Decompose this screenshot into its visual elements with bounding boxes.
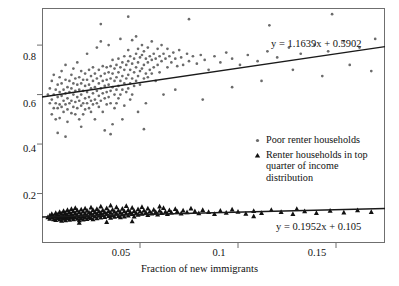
trendline-equation-poor: y = 1.1639x + 0.5902 [271,38,362,49]
x-tick-label: 0.05 [101,248,141,258]
x-axis-title: Fraction of new immigrants [0,263,399,274]
legend-label: Poor renter households [266,134,380,145]
x-tick-label: 0.15 [297,248,337,258]
y-tick-label: 0.8 [6,52,36,62]
trendline-equation-top-quarter: y = 0.1952x + 0.105 [276,221,361,232]
legend-item-poor-renter: Poor renter households [252,134,380,145]
legend-item-top-quarter: Renter households in top quarter of inco… [252,149,380,183]
x-tick-label: 0.1 [199,248,239,258]
triangle-marker-icon [253,151,262,160]
y-tick-label: 0.2 [6,191,36,201]
dot-marker-icon [253,136,262,145]
chart-legend: Poor renter households Renter households… [252,134,380,187]
legend-label: Renter households in top quarter of inco… [266,149,380,183]
scatter-chart-figure: 0.8 0.6 0.4 0.2 0.05 0.1 0.15 Fraction o… [0,0,399,286]
y-tick-label: 0.4 [6,144,36,154]
y-tick-label: 0.6 [6,99,36,109]
